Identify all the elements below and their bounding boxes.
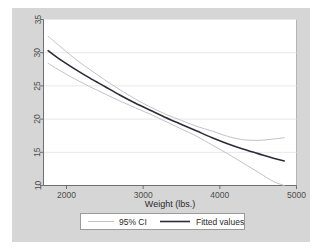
plot-area bbox=[44, 20, 297, 186]
y-tick-label: 15 bbox=[33, 147, 43, 157]
x-tick-label: 4000 bbox=[210, 190, 229, 200]
y-tick-label: 10 bbox=[33, 181, 43, 191]
y-tick-label: 25 bbox=[33, 81, 43, 91]
y-tick-label: 20 bbox=[33, 114, 43, 124]
x-tick-label: 3000 bbox=[134, 190, 153, 200]
legend: 95% CIFitted values bbox=[81, 214, 245, 230]
regression-fit-chart: 101520253035 2000300040005000 Weight (lb… bbox=[0, 0, 322, 251]
y-tick-label: 30 bbox=[33, 48, 43, 58]
legend-label-0: 95% CI bbox=[119, 217, 147, 227]
y-tick-label: 35 bbox=[33, 15, 43, 25]
x-tick-label: 2000 bbox=[57, 190, 76, 200]
x-tick-label: 5000 bbox=[287, 190, 306, 200]
x-axis-title: Weight (lbs.) bbox=[145, 199, 195, 209]
legend-label-1: Fitted values bbox=[196, 217, 244, 227]
chart-screenshot: 101520253035 2000300040005000 Weight (lb… bbox=[0, 0, 322, 251]
